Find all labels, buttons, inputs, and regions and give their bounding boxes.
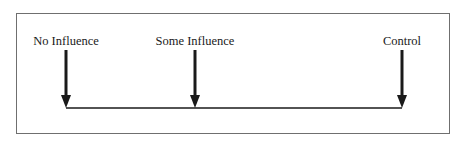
influence-scale — [0, 0, 465, 141]
arrow-control-icon — [397, 50, 407, 108]
arrow-some-influence-icon — [190, 50, 200, 108]
arrow-no-influence-icon — [61, 50, 71, 108]
